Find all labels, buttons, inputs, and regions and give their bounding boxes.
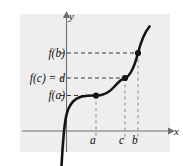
label-f-of-a: f(a) [48, 90, 65, 102]
point-a-fa [93, 92, 99, 98]
label-axis-x: x [174, 126, 179, 137]
label-x-c: c [119, 135, 124, 147]
point-b-fb [135, 50, 141, 56]
label-x-a: a [90, 135, 96, 147]
figure-container: f(b) f(c) = d f(a) a c b x y [0, 0, 183, 166]
label-axis-y: y [69, 11, 74, 22]
label-f-of-b: f(b) [48, 48, 65, 60]
point-c-d [122, 75, 128, 81]
label-x-b: b [132, 135, 138, 147]
label-f-of-c-equals-d: f(c) = d [30, 73, 65, 85]
